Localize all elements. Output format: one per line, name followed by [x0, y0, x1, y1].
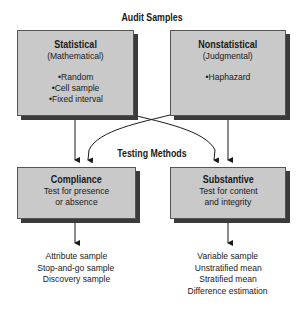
- testing-methods-title: Testing Methods: [106, 148, 198, 159]
- compliance-heading: Compliance: [51, 174, 102, 185]
- output-item: Attribute sample: [45, 250, 107, 262]
- compliance-outputs: Attribute sample Stop-and-go sample Disc…: [20, 250, 132, 285]
- substantive-line: Test for content: [199, 185, 257, 196]
- compliance-line: Test for presence: [44, 185, 110, 196]
- statistical-item: •Random: [58, 71, 93, 82]
- output-item: Unstratified mean: [194, 262, 261, 274]
- statistical-heading: Statistical: [54, 39, 97, 50]
- substantive-outputs: Variable sample Unstratified mean Strati…: [170, 250, 286, 296]
- output-item: Stop-and-go sample: [37, 262, 114, 274]
- audit-samples-title: Audit Samples: [106, 12, 198, 23]
- statistical-subheading: (Mathematical): [47, 50, 104, 61]
- nonstatistical-subheading: (Judgmental): [203, 50, 253, 61]
- substantive-box: Substantive Test for content and integri…: [170, 167, 286, 219]
- nonstatistical-item: •Haphazard: [206, 71, 251, 82]
- compliance-line: or absence: [55, 196, 97, 207]
- nonstatistical-box: Nonstatistical (Judgmental) •Haphazard: [170, 30, 286, 116]
- statistical-box: Statistical (Mathematical) •Random •Cell…: [17, 30, 134, 116]
- substantive-heading: Substantive: [202, 174, 253, 185]
- nonstatistical-heading: Nonstatistical: [198, 39, 257, 50]
- output-item: Discovery sample: [42, 273, 109, 285]
- compliance-box: Compliance Test for presence or absence: [17, 167, 136, 219]
- statistical-item: •Fixed interval: [49, 93, 103, 104]
- output-item: Difference estimation: [188, 285, 268, 297]
- statistical-item: •Cell sample: [52, 82, 100, 93]
- substantive-line: and integrity: [205, 196, 252, 207]
- output-item: Stratified mean: [199, 273, 257, 285]
- output-item: Variable sample: [198, 250, 259, 262]
